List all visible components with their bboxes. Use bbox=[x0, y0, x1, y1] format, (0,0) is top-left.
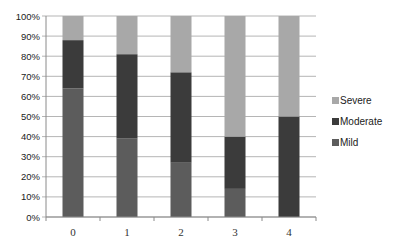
bar-segment-mild bbox=[63, 88, 84, 217]
x-tick-label: 3 bbox=[232, 226, 238, 238]
bar-stack-1 bbox=[117, 16, 138, 217]
y-tick-label: 20% bbox=[21, 171, 41, 182]
bar-segment-severe bbox=[279, 16, 300, 117]
legend-swatch bbox=[332, 97, 339, 104]
legend-label: Moderate bbox=[340, 116, 383, 127]
y-tick-label: 0% bbox=[26, 212, 40, 223]
x-tick-label: 4 bbox=[286, 226, 292, 238]
bar-segment-mild bbox=[117, 139, 138, 217]
legend-swatch bbox=[332, 118, 339, 125]
y-tick-label: 70% bbox=[21, 71, 41, 82]
bar-segment-severe bbox=[63, 16, 84, 40]
legend-label: Mild bbox=[340, 137, 358, 148]
x-tick-label: 2 bbox=[178, 226, 184, 238]
y-tick-label: 40% bbox=[21, 131, 41, 142]
bar-segment-moderate bbox=[279, 117, 300, 218]
bar-segment-severe bbox=[117, 16, 138, 54]
bar-segment-moderate bbox=[171, 72, 192, 162]
stacked-bar-chart: 0%10%20%30%40%50%60%70%80%90%100% 01234 … bbox=[0, 0, 398, 250]
bar-segment-moderate bbox=[225, 137, 246, 189]
y-tick-label: 30% bbox=[21, 151, 41, 162]
legend: SevereModerateMild bbox=[332, 95, 383, 148]
y-tick-label: 80% bbox=[21, 51, 41, 62]
bar-segment-mild bbox=[171, 163, 192, 217]
y-tick-label: 100% bbox=[16, 11, 41, 22]
legend-label: Severe bbox=[340, 95, 372, 106]
legend-item-mild: Mild bbox=[332, 137, 358, 148]
bar-segment-mild bbox=[225, 189, 246, 217]
bar-segment-moderate bbox=[117, 54, 138, 138]
bar-stack-3 bbox=[225, 16, 246, 217]
x-axis: 01234 bbox=[46, 217, 316, 238]
legend-item-severe: Severe bbox=[332, 95, 372, 106]
x-tick-label: 1 bbox=[124, 226, 130, 238]
bar-segment-moderate bbox=[63, 40, 84, 88]
bar-stack-2 bbox=[171, 16, 192, 217]
x-tick-label: 0 bbox=[70, 226, 76, 238]
y-tick-label: 90% bbox=[21, 31, 41, 42]
bar-segment-severe bbox=[225, 16, 246, 137]
bar-stack-0 bbox=[63, 16, 84, 217]
bar-segment-severe bbox=[171, 16, 192, 72]
y-tick-label: 60% bbox=[21, 91, 41, 102]
y-axis: 0%10%20%30%40%50%60%70%80%90%100% bbox=[16, 11, 46, 223]
y-tick-label: 50% bbox=[21, 111, 41, 122]
legend-swatch bbox=[332, 139, 339, 146]
bar-stack-4 bbox=[279, 16, 300, 217]
y-tick-label: 10% bbox=[21, 191, 41, 202]
legend-item-moderate: Moderate bbox=[332, 116, 383, 127]
